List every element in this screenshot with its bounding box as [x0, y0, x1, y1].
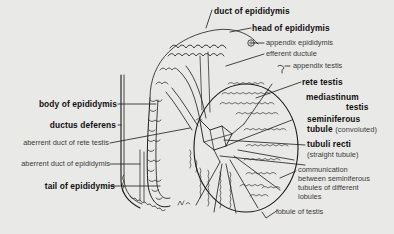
label-seminiferous-tubule-word: tubule: [307, 124, 333, 134]
label-communication-line3: tubules of different: [298, 184, 359, 192]
label-aberrent-duct-of-rete-testis: aberrent duct of rete testis: [23, 139, 109, 147]
label-ductus-deferens: ductus deferens: [50, 121, 116, 129]
label-lobule-of-testis: lobule of testis: [276, 208, 323, 216]
label-mediastinum-testis-line2: testis: [346, 103, 368, 111]
label-communication-line1: communication: [298, 166, 348, 174]
label-mediastinum-testis-line1: mediastinum: [306, 93, 359, 101]
label-seminiferous-tubule-note: (convoluted): [335, 125, 377, 134]
label-appendix-epididymis: appendix epididymis: [266, 39, 333, 47]
label-communication-line4: lobules: [298, 193, 321, 201]
label-tail-of-epididymis: tail of epididymis: [45, 182, 115, 190]
label-appendix-testis: appendix testis: [293, 62, 342, 70]
label-seminiferous-tubule-line2: tubule (convoluted): [307, 125, 377, 134]
label-tubuli-recti: tubuli recti: [307, 140, 351, 148]
label-rete-testis: rete testis: [302, 78, 343, 86]
label-tubuli-recti-note: (straight tubule): [307, 151, 358, 159]
label-seminiferous-tubule-line1: seminiferous: [307, 115, 360, 123]
anatomy-diagram: duct of epididymis head of epididymis ap…: [0, 0, 394, 234]
label-duct-of-epididymis: duct of epididymis: [214, 7, 290, 15]
label-aberrent-duct-of-epididymis: aberrent duct of epididymis: [21, 160, 110, 168]
label-body-of-epididymis: body of epididymis: [39, 100, 117, 108]
label-efferent-ductule: efferent ductule: [266, 50, 317, 58]
label-head-of-epididymis: head of epididymis: [252, 24, 330, 32]
label-communication-line2: between seminiferous: [298, 175, 370, 183]
